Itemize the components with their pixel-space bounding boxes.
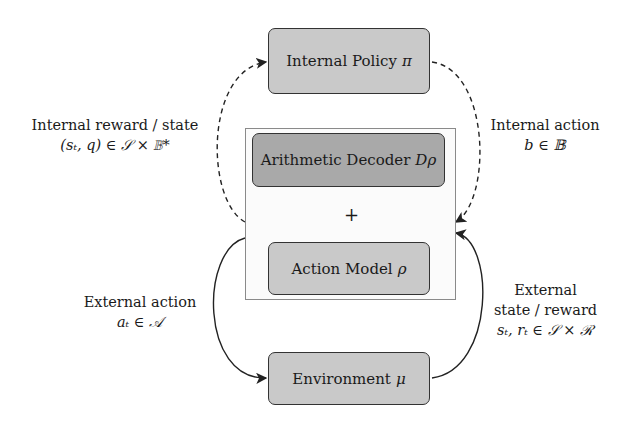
- internal-action-label: Internal action b ∈ 𝔹: [480, 115, 610, 155]
- environment-node: Environmentμ: [268, 352, 430, 405]
- node-label: Arithmetic Decoder: [261, 151, 411, 169]
- action-model-node: Action Modelρ: [268, 242, 430, 295]
- external-state-label: External state / reward sₜ, rₜ ∈ 𝒮 × ℛ: [483, 280, 608, 340]
- node-symbol: π: [402, 52, 412, 70]
- node-symbol: μ: [396, 370, 406, 388]
- internal-reward-label: Internal reward / state (sₜ, q) ∈ 𝒮 × 𝔹*: [20, 115, 210, 155]
- node-label: Action Model: [291, 260, 392, 278]
- plus-sign: +: [344, 204, 359, 225]
- arithmetic-decoder-node: Arithmetic DecoderDρ: [252, 133, 445, 187]
- external-action-label: External action aₜ ∈ 𝒜: [75, 292, 205, 332]
- internal-policy-node: Internal Policyπ: [268, 28, 430, 94]
- node-label: Environment: [292, 370, 391, 388]
- node-label: Internal Policy: [286, 52, 397, 70]
- node-symbol: ρ: [398, 260, 407, 278]
- node-symbol: Dρ: [415, 151, 436, 169]
